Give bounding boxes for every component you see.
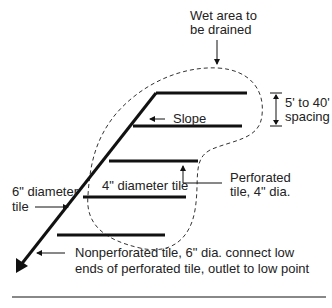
perforated-pointer [183,166,222,183]
wet-area-label-1: Wet area to [190,8,257,23]
wet-area-outline [88,68,263,250]
six-inch-label-1: 6" diameter [12,184,79,199]
perforated-label-2: tile, 4" dia. [230,184,290,199]
nonperf-label-1: Nonperforated tile, 6" dia. connect low [75,245,295,260]
nonperf-label-2: ends of perforated tile, outlet to low p… [75,261,310,276]
spacing-arrow-up-icon [273,94,279,99]
tile-drainage-diagram: Wet area to be drained 5' to 40' spacing… [0,0,332,308]
spacing-label-1: 5' to 40' [285,95,330,110]
slope-label: Slope [173,111,206,126]
spacing-label-2: spacing [285,109,330,124]
spacing-arrow-down-icon [273,120,279,125]
perforated-label-1: Perforated [230,170,291,185]
six-inch-label-2: tile [12,199,29,214]
four-inch-label: 4" diameter tile [102,178,188,193]
wet-area-label-2: be drained [190,22,251,37]
